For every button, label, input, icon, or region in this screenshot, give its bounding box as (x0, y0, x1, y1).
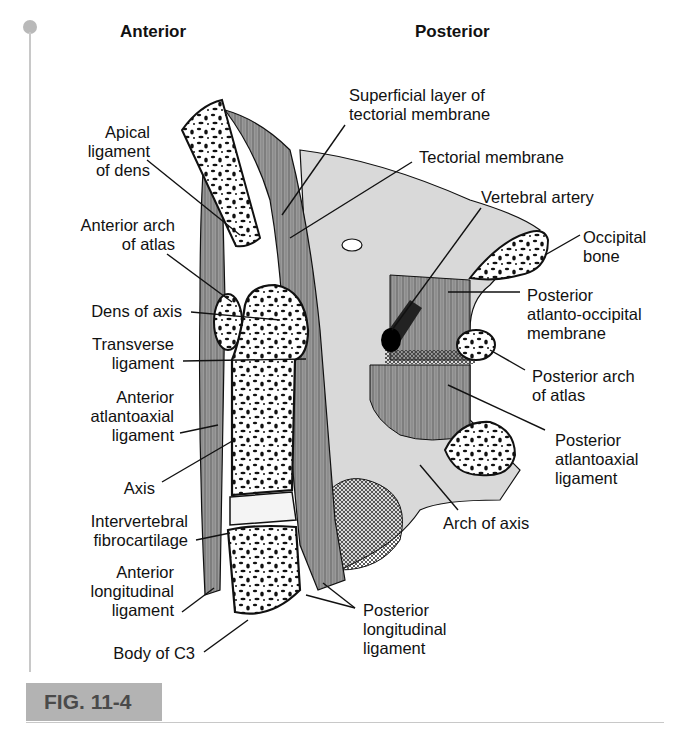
label-apical-ligament: Apical ligament of dens (70, 123, 150, 180)
label-transverse-ligament: Transverse ligament (40, 335, 174, 373)
label-anterior-longitudinal-ligament: Anterior longitudinal ligament (40, 563, 174, 620)
label-anterior-atlantoaxial-ligament: Anterior atlantoaxial ligament (40, 388, 174, 445)
label-posterior-arch-atlas: Posterior arch of atlas (532, 367, 635, 405)
intervertebral-disc (230, 492, 296, 525)
label-intervertebral-fibrocartilage: Intervertebral fibrocartilage (40, 512, 188, 550)
label-dens-of-axis: Dens of axis (40, 302, 182, 321)
label-body-of-c3: Body of C3 (40, 644, 195, 663)
label-posterior-longitudinal: Posterior longitudinal ligament (363, 601, 446, 658)
label-occipital-bone: Occipital bone (583, 228, 646, 266)
label-posterior-atlanto-occipital: Posterior atlanto-occipital membrane (527, 286, 642, 343)
label-posterior-atlantoaxial: Posterior atlantoaxial ligament (555, 431, 638, 488)
label-arch-of-axis: Arch of axis (443, 514, 529, 533)
figure-tag: FIG. 11-4 (26, 683, 162, 721)
small-foramen (342, 239, 362, 251)
label-tectorial-membrane: Tectorial membrane (419, 148, 564, 167)
c3-body-bone (228, 526, 300, 614)
label-axis: Axis (40, 479, 155, 498)
posterior-arch-atlas-shape (457, 330, 495, 360)
label-superficial-tectorial: Superficial layer of tectorial membrane (349, 86, 490, 124)
label-vertebral-artery: Vertebral artery (481, 188, 594, 207)
label-anterior-arch-atlas: Anterior arch of atlas (40, 216, 175, 254)
